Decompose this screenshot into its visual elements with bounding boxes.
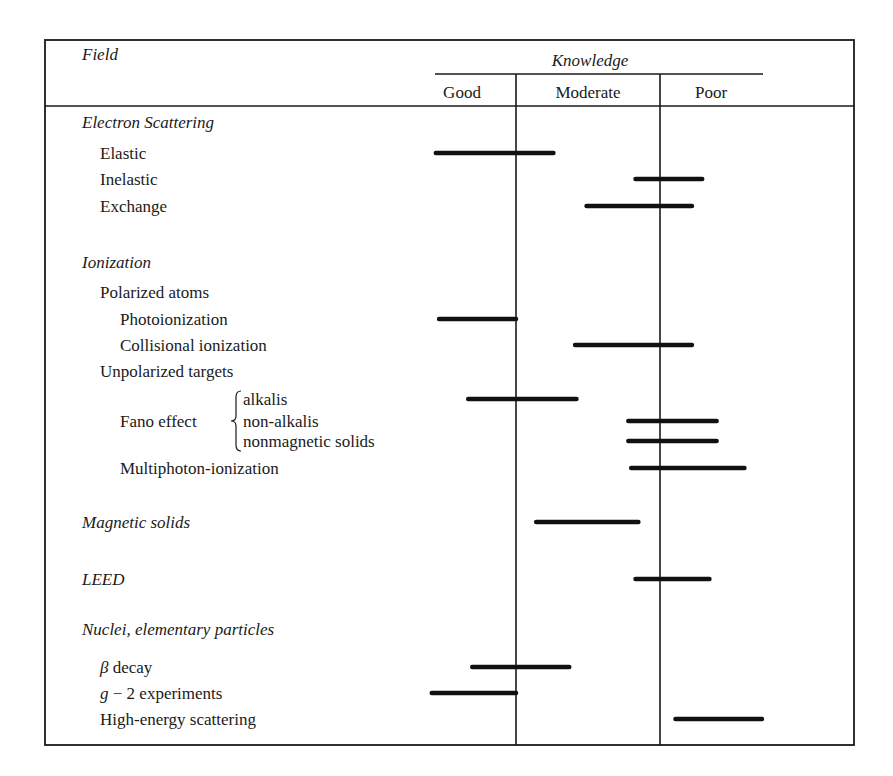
- row-label-multiphoton-ionization: Multiphoton-ionization: [120, 459, 279, 478]
- field-header: Field: [81, 45, 118, 64]
- row-label-photoionization: Photoionization: [120, 310, 228, 329]
- knowledge-table-chart: Field Knowledge Good Moderate Poor Elect…: [0, 0, 893, 776]
- row-label-fano-effect: Fano effect: [120, 412, 197, 431]
- row-label-electron-scattering: Electron Scattering: [81, 113, 214, 132]
- row-label-ionization: Ionization: [81, 253, 151, 272]
- knowledge-header: Knowledge: [551, 51, 629, 70]
- row-label-non-alkalis: non-alkalis: [243, 412, 319, 431]
- row-label-elastic: Elastic: [100, 144, 147, 163]
- row-label-unpolarized-targets: Unpolarized targets: [100, 362, 233, 381]
- column-header-moderate: Moderate: [555, 83, 620, 102]
- table-border: [45, 40, 854, 745]
- row-label-polarized-atoms: Polarized atoms: [100, 283, 209, 302]
- column-header-poor: Poor: [695, 83, 727, 102]
- row-label-magnetic-solids: Magnetic solids: [81, 513, 191, 532]
- column-header-good: Good: [443, 83, 481, 102]
- row-label-inelastic: Inelastic: [100, 170, 158, 189]
- row-label-exchange: Exchange: [100, 197, 167, 216]
- row-label-nonmagnetic-solids: nonmagnetic solids: [243, 432, 375, 451]
- row-label-decay: β decay: [99, 658, 153, 677]
- row-label-alkalis: alkalis: [243, 390, 287, 409]
- row-label-nuclei-elementary-particles: Nuclei, elementary particles: [81, 620, 275, 639]
- row-label-g-2-experiments: g − 2 experiments: [100, 684, 222, 703]
- row-label-high-energy-scattering: High-energy scattering: [100, 710, 256, 729]
- left-brace-icon: [231, 391, 241, 451]
- row-label-collisional-ionization: Collisional ionization: [120, 336, 267, 355]
- row-label-leed: LEED: [81, 570, 125, 589]
